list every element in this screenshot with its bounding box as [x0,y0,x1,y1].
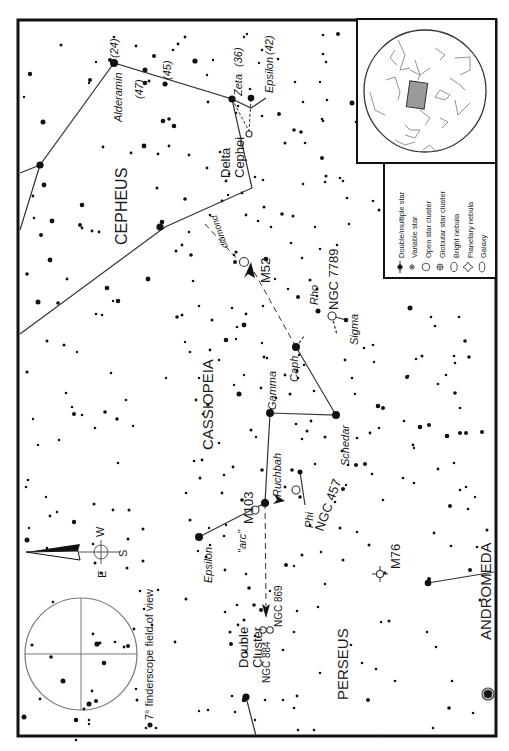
label-ngc884: NGC 884 [261,641,272,683]
finderscope-caption: 7° finderscope field of view [143,589,155,720]
compass-w: W [94,526,106,537]
legend-label-planetary: Planetary nebula [466,201,475,258]
legend: Double/multiple star Variable star Open … [384,163,496,278]
label-arc: "arc" [236,529,248,553]
planetary-nebula-m76 [377,571,384,578]
label-sigma: Sigma [348,314,360,345]
star-andromeda [425,580,432,587]
label-epsilon-cassiopeiae: Epsilon [202,547,214,583]
label-double: Double [236,627,251,668]
star-perseus [242,693,249,700]
label-cephei: Cephei [232,137,247,178]
label-rho: Rho [308,285,320,305]
legend-label-globular: Globular star cluster [438,190,447,258]
label-cepheus: CEPHEUS [113,168,130,245]
chart-area-highlight [406,81,427,109]
legend-label-bright: Bright nebula [452,213,461,258]
label-ngc869: NGC 869 [273,585,284,627]
label-perseus: PERSEUS [334,628,351,700]
open-cluster-m52 [240,258,249,267]
label-caph: Caph [288,356,300,382]
star-alderamin [110,59,118,67]
star-chart: CEPHEUS CASSIOPEIA PERSEUS ANDROMEDA Ald… [0,0,509,751]
label-m76: M76 [388,544,403,569]
sky-globe-inset [357,19,496,163]
legend-label-variable: Variable star [410,216,419,258]
label-ngc7789: NGC 7789 [326,249,341,310]
label-cassiopeia: CASSIOPEIA [199,359,216,450]
compass-e: E [96,571,108,578]
label-m103: M103 [241,491,256,524]
compass-s: S [117,550,129,557]
open-cluster-ngc7789 [328,312,336,320]
label-gamma: Gamma [266,371,278,410]
star-schedar [332,411,340,419]
label-zeta: Zeta [232,74,244,97]
legend-label-double: Double/multiple star [397,191,406,258]
legend-label-galaxy: Galaxy [479,234,488,258]
open-cluster-ngc457 [292,486,300,494]
label-epsilon-cephei: Epsilon [263,57,275,93]
label-epsilon-cephei-num: (42) [263,35,275,55]
star-ruchbah [261,499,269,507]
star-rho [316,309,321,314]
label-alderamin-num: (24) [108,38,120,58]
label-ruchbah: Ruchbah [271,453,283,497]
star-45 [163,82,168,87]
label-andromeda: ANDROMEDA [477,542,494,640]
legend-label-open: Open star cluster [424,200,433,258]
label-m52: M52 [258,258,273,283]
star-phi [298,470,303,475]
star-epsilon-cassiopeiae [195,533,203,541]
star-caph [292,343,300,351]
label-47: (47) [133,79,145,99]
galaxy-marker [484,690,492,698]
label-zeta-num: (36) [232,47,244,67]
star-cepheus-1 [36,161,43,168]
star-epsilon-cephei [248,95,255,102]
label-delta: Delta [218,147,233,178]
label-45: (45) [161,60,173,80]
label-alderamin: Alderamin [112,72,124,123]
star-cepheus-2 [156,223,163,230]
variable-star-delta-cephei [246,131,252,137]
label-schedar: Schedar [339,424,351,466]
